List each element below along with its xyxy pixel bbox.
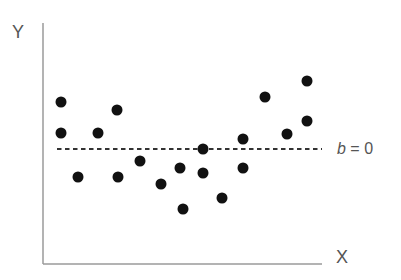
data-point	[238, 134, 249, 145]
ref-label-value: = 0	[346, 140, 373, 157]
y-axis-label: Y	[12, 23, 24, 41]
data-point	[113, 172, 124, 183]
data-point	[56, 128, 67, 139]
data-point	[93, 128, 104, 139]
x-axis-label: X	[336, 248, 348, 266]
data-point	[73, 172, 84, 183]
data-point	[135, 156, 146, 167]
data-point	[217, 193, 228, 204]
data-point	[56, 97, 67, 108]
data-points	[56, 76, 313, 215]
ref-label-variable: b	[337, 140, 346, 157]
data-point	[302, 76, 313, 87]
data-point	[112, 105, 123, 116]
data-point	[282, 129, 293, 140]
data-point	[175, 163, 186, 174]
data-point	[302, 116, 313, 127]
data-point	[198, 168, 209, 179]
reference-line-label: b = 0	[337, 141, 373, 157]
data-point	[238, 163, 249, 174]
data-point	[198, 144, 209, 155]
data-point	[260, 92, 271, 103]
data-point	[178, 204, 189, 215]
data-point	[156, 179, 167, 190]
